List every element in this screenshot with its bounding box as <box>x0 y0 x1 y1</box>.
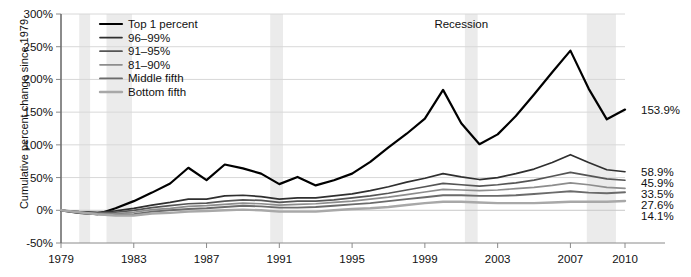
recession-annotation: Recession <box>434 18 488 30</box>
x-tick-label: 1979 <box>48 253 74 265</box>
recession-band <box>587 14 616 243</box>
y-tick-label: -50% <box>26 237 53 249</box>
recession-band <box>270 14 283 243</box>
series-end-label-5: 14.1% <box>641 210 674 222</box>
y-tick-label: 0% <box>36 204 53 216</box>
chart-container: Cumulative percent change since 1979 300… <box>0 0 691 277</box>
x-tick-label: 1983 <box>121 253 147 265</box>
legend-label-2: 91–95% <box>128 45 170 57</box>
x-tick-label: 1999 <box>412 253 438 265</box>
line-chart-svg: 300%250%200%150%100%50%0%-50%19791983198… <box>0 0 691 277</box>
x-tick-label: 1991 <box>267 253 293 265</box>
series-end-label-0: 153.9% <box>641 104 680 116</box>
legend-label-3: 81–90% <box>128 59 170 71</box>
legend-label-0: Top 1 percent <box>128 18 198 30</box>
legend-label-4: Middle fifth <box>128 72 184 84</box>
x-tick-label: 1987 <box>194 253 220 265</box>
chart-plot-area: 300%250%200%150%100%50%0%-50%19791983198… <box>0 0 691 277</box>
legend-label-1: 96–99% <box>128 32 170 44</box>
x-tick-label: 2003 <box>485 253 511 265</box>
y-tick-label: 250% <box>24 41 53 53</box>
y-tick-label: 100% <box>24 139 53 151</box>
y-tick-label: 300% <box>24 8 53 20</box>
recession-band <box>79 14 90 243</box>
y-tick-label: 50% <box>30 172 53 184</box>
x-tick-label: 2007 <box>558 253 584 265</box>
x-tick-label: 2010 <box>612 253 638 265</box>
y-tick-label: 150% <box>24 106 53 118</box>
legend-label-5: Bottom fifth <box>128 86 186 98</box>
y-tick-label: 200% <box>24 73 53 85</box>
x-tick-label: 1995 <box>339 253 365 265</box>
